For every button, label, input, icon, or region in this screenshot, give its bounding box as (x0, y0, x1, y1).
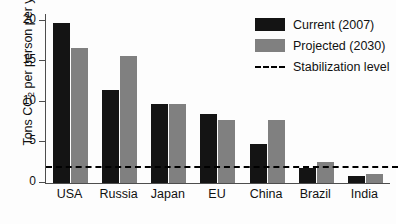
y-axis-tick-label: 20 (23, 12, 36, 27)
bar-usa-projected (71, 48, 88, 183)
x-axis-label-usa: USA (45, 187, 94, 202)
bar-brazil-projected (317, 162, 334, 183)
bar-china-current (250, 144, 267, 183)
bar-usa-current (53, 23, 70, 183)
legend-item-current[interactable]: Current (2007) (255, 14, 395, 35)
x-axis-label-russia: Russia (94, 187, 143, 202)
bar-eu-projected (218, 120, 235, 183)
bar-brazil-current (299, 168, 316, 183)
y-axis-tick-15: 15 (39, 60, 45, 61)
x-axis-label-china: China (242, 187, 291, 202)
bar-japan-current (151, 104, 168, 183)
bar-eu-current (200, 114, 217, 183)
legend-label: Current (2007) (293, 18, 374, 32)
x-axis-label-japan: Japan (143, 187, 192, 202)
stabilization-level-line (46, 166, 398, 168)
x-axis-line (45, 183, 390, 184)
y-axis-tick-label: 0 (29, 174, 36, 189)
y-axis-tick-10: 10 (39, 101, 45, 102)
bar-group-russia (95, 14, 144, 183)
bar-russia-projected (120, 56, 137, 183)
bar-india-current (348, 176, 365, 183)
legend-item-projected[interactable]: Projected (2030) (255, 35, 395, 56)
bar-group-eu (193, 14, 242, 183)
y-axis-tick-5: 5 (39, 141, 45, 142)
x-axis-label-brazil: Brazil (291, 187, 340, 202)
y-axis-tick-20: 20 (39, 20, 45, 21)
x-axis-label-eu: EU (192, 187, 241, 202)
x-axis-label-india: India (340, 187, 389, 202)
bar-group-usa (46, 14, 95, 183)
y-axis-tick-label: 10 (23, 93, 36, 108)
y-axis-tick-label: 5 (29, 133, 36, 148)
bar-china-projected (268, 120, 285, 183)
bar-japan-projected (169, 104, 186, 183)
legend-swatch-current-icon (255, 18, 285, 31)
legend-item-dashed[interactable]: Stabilization level (255, 56, 395, 77)
chart-legend: Current (2007)Projected (2030)Stabilizat… (255, 14, 395, 77)
y-axis-tick-0: 0 (39, 182, 45, 183)
y-axis-tick-label: 15 (23, 52, 36, 67)
legend-label: Stabilization level (293, 60, 390, 74)
bar-russia-current (102, 90, 119, 183)
bar-india-projected (366, 174, 383, 183)
legend-swatch-projected-icon (255, 39, 285, 52)
legend-swatch-dashed-icon (255, 66, 285, 68)
bar-group-japan (144, 14, 193, 183)
legend-label: Projected (2030) (293, 39, 385, 53)
